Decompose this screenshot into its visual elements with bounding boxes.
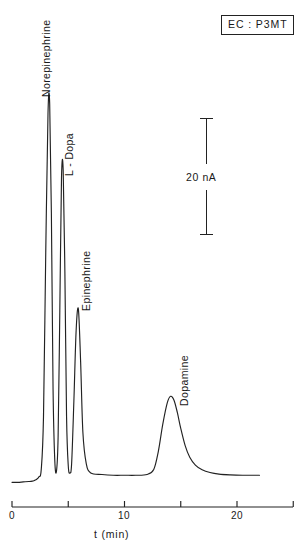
x-axis-title: t (min) bbox=[94, 528, 129, 540]
scale-bar-bottom-cap bbox=[200, 234, 213, 235]
detector-condition-label: EC : P3MT bbox=[221, 15, 294, 35]
peak-label-dopamine: Dopamine bbox=[178, 355, 190, 406]
x-tick-label-0: 0 bbox=[1, 510, 23, 521]
scale-bar-label: 20 nA bbox=[184, 170, 218, 184]
x-axis-ticks bbox=[12, 501, 293, 507]
chromatogram-figure: EC : P3MT 20 nA Norepinephrine L - Dopa … bbox=[0, 0, 303, 547]
peak-label-norepinephrine: Norepinephrine bbox=[40, 20, 52, 97]
x-tick-label-10: 10 bbox=[113, 510, 135, 521]
peak-label-l-dopa: L - Dopa bbox=[63, 133, 75, 176]
peak-label-epinephrine: Epinephrine bbox=[80, 251, 92, 311]
x-tick-label-20: 20 bbox=[226, 510, 248, 521]
